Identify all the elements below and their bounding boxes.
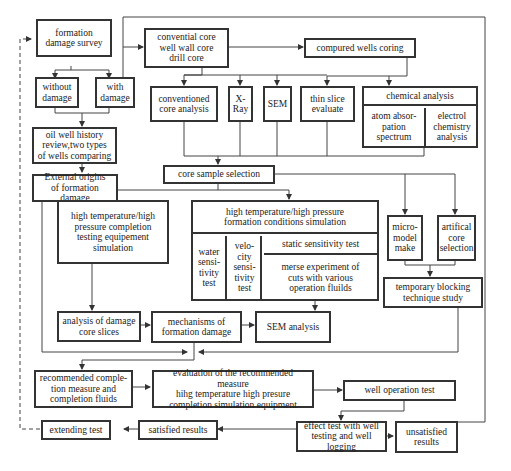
node-label: mechanisms of formation damage bbox=[162, 317, 231, 338]
node-label: convential core well wall core drill cor… bbox=[157, 32, 215, 64]
node-label: oil well history review,two types of wel… bbox=[38, 130, 111, 162]
node-label: compured wells coring bbox=[316, 43, 403, 54]
node-formation-damage-survey: formation damage survey bbox=[36, 19, 112, 57]
node-oil-well-history-review: oil well history review,two types of wel… bbox=[32, 127, 117, 164]
node-sem-analysis: SEM analysis bbox=[255, 311, 331, 343]
node-merse-experiment: merse experiment of cuts with various op… bbox=[264, 257, 377, 299]
node-well-operation-test: well operation test bbox=[343, 380, 456, 401]
node-analysis-of-damage-core-slices: analysis of damage core slices bbox=[57, 311, 141, 342]
node-label: micro- model make bbox=[392, 222, 417, 254]
node-label: SEM bbox=[268, 99, 288, 110]
node-hthp-formation-simulation: high temperature/high pressure formation… bbox=[193, 202, 377, 234]
node-water-sensitivity-test: water sensi- tivity test bbox=[193, 236, 227, 299]
node-velocity-sensitivity-test: velo- city sensi- tivity test bbox=[229, 236, 262, 299]
node-external-origins: External origins of formation damage bbox=[32, 174, 118, 202]
node-xray: X- Ray bbox=[228, 86, 253, 122]
node-label: X- Ray bbox=[233, 94, 248, 115]
node-core-sample-selection: core sample selection bbox=[163, 165, 275, 184]
node-label: evaluation of the recommended measure hi… bbox=[156, 368, 310, 410]
node-label: core sample selection bbox=[178, 169, 260, 180]
node-satisfied-results: satisfied results bbox=[138, 420, 218, 440]
node-chemical-analysis: chemical analysis bbox=[364, 88, 476, 106]
node-mechanisms-of-formation-damage: mechanisms of formation damage bbox=[151, 311, 242, 343]
node-chemical-analysis-group: chemical analysis atom absor- pation spe… bbox=[362, 86, 478, 148]
node-compared-wells-coring: compured wells coring bbox=[304, 38, 416, 58]
node-label: artifical core selection bbox=[440, 222, 474, 254]
node-label: conventioned core analysis bbox=[158, 94, 209, 115]
node-label: thin slice evaluate bbox=[310, 94, 345, 115]
node-sem: SEM bbox=[263, 86, 292, 122]
node-evaluation-recommended-measure: evaluation of the recommended measure hi… bbox=[152, 370, 314, 408]
node-electrochemistry-analysis: electrol chemistry analysis bbox=[428, 108, 476, 146]
node-label: with damage bbox=[100, 82, 130, 103]
node-recommended-completion: recommended comple- tion measure and com… bbox=[34, 370, 133, 408]
node-extending-test: extending test bbox=[41, 420, 111, 440]
node-micro-model-make: micro- model make bbox=[387, 215, 423, 261]
node-conventional-core-analysis: conventioned core analysis bbox=[150, 86, 218, 122]
node-label: extending test bbox=[49, 425, 102, 436]
node-atom-absorption-spectrum: atom absor- pation spectrum bbox=[364, 108, 426, 146]
node-artificial-core-selection: artifical core selection bbox=[437, 215, 476, 261]
node-label: formation damage survey bbox=[45, 28, 102, 49]
node-label: SEM analysis bbox=[267, 322, 320, 333]
node-unsatisfied-results: unsatisfied results bbox=[395, 421, 458, 453]
node-label: analysis of damage core slices bbox=[63, 316, 136, 337]
node-label: effect test with well testing and well l… bbox=[300, 421, 383, 453]
node-effect-test: effect test with well testing and well l… bbox=[296, 421, 387, 452]
node-with-damage: with damage bbox=[95, 77, 135, 108]
node-temporary-blocking-study: temporary blocking technique study bbox=[383, 277, 483, 308]
node-hthp-completion-simulation: high temperature/high pressure completio… bbox=[57, 200, 169, 264]
node-label: unsatisfied results bbox=[406, 427, 447, 448]
node-core-types: convential core well wall core drill cor… bbox=[144, 28, 229, 68]
node-label: temporary blocking technique study bbox=[396, 282, 471, 303]
node-label: high temperature/high pressure completio… bbox=[71, 211, 155, 253]
node-label: without damage bbox=[42, 82, 72, 103]
node-label: satisfied results bbox=[149, 425, 208, 436]
node-static-sensitivity-test: static sensitivity test bbox=[264, 236, 377, 255]
node-label: recommended comple- tion measure and com… bbox=[40, 373, 127, 405]
node-label: well operation test bbox=[364, 385, 434, 396]
node-hthp-formation-simulation-group: high temperature/high pressure formation… bbox=[191, 200, 379, 301]
node-without-damage: without damage bbox=[35, 77, 79, 108]
node-thin-slice-evaluate: thin slice evaluate bbox=[300, 86, 355, 122]
